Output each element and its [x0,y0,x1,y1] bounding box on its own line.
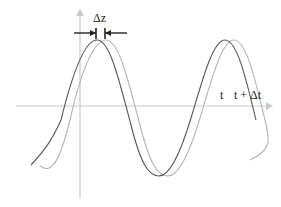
delta-z-label: Δz [93,11,106,25]
delta-z-marker [74,28,127,39]
t-plus-dt-label: t + Δt [234,88,262,102]
wave-t [31,40,256,176]
wave-t-plus-dt [40,40,268,176]
t-label: t [220,88,224,102]
wave-diagram: Δz t t + Δt [0,0,281,207]
